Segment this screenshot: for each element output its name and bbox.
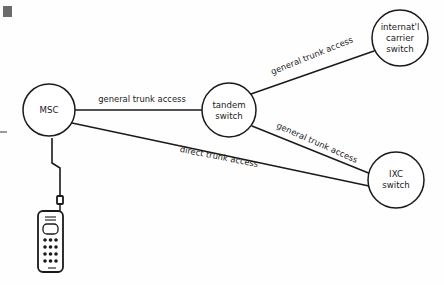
phone-antenna-base (57, 196, 63, 204)
phone-screen (43, 224, 58, 234)
scan-artifact-square (3, 6, 12, 17)
edge-label-msc-ixc: direct trunk access (179, 144, 259, 169)
phone-key (49, 252, 53, 256)
phone-key (54, 252, 58, 256)
phone-key (54, 259, 58, 263)
node-ixc-switch-label-line2: switch (382, 180, 409, 190)
diagram-svg: MSC tandem switch internat'l carrier swi… (0, 0, 444, 285)
node-ixc-switch-label-line1: IXC (389, 169, 403, 179)
node-msc-label: MSC (40, 105, 59, 115)
node-international-label-line3: switch (386, 44, 413, 54)
edge-label-tandem-ixc: general trunk access (275, 120, 359, 165)
network-diagram-canvas: MSC tandem switch internat'l carrier swi… (0, 0, 444, 285)
scan-artifact-dash (0, 131, 7, 133)
rf-lightning-icon (52, 138, 60, 196)
node-international-label-line1: internat'l (381, 22, 420, 32)
node-tandem-switch-label-line1: tandem (212, 100, 245, 110)
phone-key (49, 245, 53, 249)
node-tandem-switch-label-line2: switch (215, 111, 242, 121)
phone-key (43, 245, 47, 249)
phone-key (49, 238, 53, 242)
phone-key (43, 259, 47, 263)
phone-key (43, 238, 47, 242)
phone-key (43, 252, 47, 256)
phone-key (49, 259, 53, 263)
phone-key (54, 238, 58, 242)
node-international-label-line2: carrier (386, 33, 415, 43)
link-tandem-ixc (252, 126, 371, 174)
mobile-handset-icon[interactable] (38, 196, 63, 272)
edge-label-msc-tandem: general trunk access (98, 94, 186, 104)
edge-label-tandem-international: general trunk access (269, 34, 354, 76)
phone-key (54, 245, 58, 249)
